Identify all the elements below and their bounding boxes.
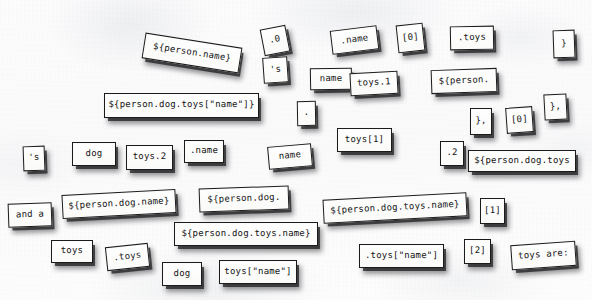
word-tile[interactable]: toys [51, 240, 93, 263]
word-tile-label: }, [550, 102, 562, 112]
word-tile-label: ${person.dog.toys.name} [181, 230, 310, 239]
word-tile-label: and a [16, 210, 44, 220]
word-tile-label: dog [174, 270, 191, 279]
word-tile[interactable]: ${person. [431, 68, 498, 94]
word-tile-label: dog [86, 150, 103, 159]
word-tile[interactable]: [2] [464, 239, 491, 264]
word-tile[interactable]: and a [8, 202, 53, 228]
word-tile-label: toys[1] [345, 136, 384, 145]
word-tile[interactable]: ${person.dog.toys [468, 150, 576, 172]
word-tile-label: [1] [484, 207, 501, 216]
word-tile[interactable]: .toys [450, 26, 494, 51]
word-tile[interactable]: ${person.dog.name} [61, 189, 176, 219]
word-tile-label: }, [475, 117, 486, 126]
word-tile[interactable]: toys are: [510, 241, 577, 270]
tile-board: ${person.name}.0's.name[0].toys}nametoys… [0, 0, 592, 300]
word-tile-label: toys.2 [133, 153, 167, 162]
word-tile[interactable]: toys["name"] [219, 260, 297, 284]
word-tile-label: .0 [269, 35, 282, 46]
word-tile[interactable]: ${person.name} [142, 32, 243, 73]
word-tile-label: .toys [458, 33, 486, 42]
word-tile[interactable]: }, [543, 93, 567, 120]
word-tile[interactable]: toys[1] [337, 128, 392, 152]
word-tile[interactable]: [0] [396, 23, 426, 54]
word-tile[interactable]: toys.1 [349, 71, 398, 96]
word-tile-label: } [561, 39, 567, 48]
word-tile[interactable]: .toys [105, 243, 150, 271]
word-tile[interactable]: ${person.dog. [199, 185, 290, 212]
word-tile-label: [0] [402, 33, 420, 44]
word-tile[interactable]: dog [162, 262, 202, 286]
word-tile-label: toys are: [518, 249, 569, 262]
word-tile-label: .toys [113, 251, 142, 263]
word-tile-label: ${person.dog.toys["name"]} [108, 101, 254, 110]
word-tile-label: .toys["name"] [365, 252, 438, 261]
word-tile-label: toys [61, 247, 83, 256]
word-tile[interactable]: 's [262, 56, 289, 84]
word-tile-label: ${person.dog.toys [474, 157, 570, 166]
word-tile-label: [2] [469, 247, 486, 256]
word-tile-label: ${person.dog.name} [68, 197, 169, 211]
word-tile[interactable]: .0 [260, 25, 291, 56]
word-tile[interactable]: name [310, 68, 352, 91]
word-tile-label: ${person.dog. [207, 193, 280, 205]
word-tile[interactable]: [1] [480, 198, 505, 224]
word-tile-label: name [320, 74, 343, 83]
word-tile[interactable]: [0] [505, 106, 534, 134]
word-tile[interactable]: .name [330, 25, 380, 55]
word-tile-label: ${person.name} [152, 42, 231, 63]
word-tile[interactable]: .name [184, 140, 224, 163]
word-tile[interactable]: } [553, 30, 576, 59]
word-tile-label: .name [190, 147, 218, 156]
word-tile-label: toys["name"] [224, 268, 291, 277]
word-tile-label: toys.1 [357, 78, 391, 89]
word-tile[interactable]: 's [23, 146, 46, 172]
word-tile[interactable]: .2 [440, 141, 464, 166]
word-tile[interactable]: .toys["name"] [359, 244, 444, 268]
word-tile[interactable]: ${person.dog.toys["name"]} [104, 93, 259, 118]
word-tile-label: 's [270, 65, 282, 75]
word-tile[interactable]: ${person.dog.toys.name} [322, 192, 467, 224]
word-tile[interactable]: . [297, 101, 316, 126]
word-tile[interactable]: name [267, 143, 313, 170]
word-tile[interactable]: ${person.dog.toys.name} [174, 222, 318, 246]
word-tile-label: [0] [511, 115, 528, 125]
word-tile-label: .name [340, 34, 369, 46]
word-tile-label: . [304, 109, 310, 118]
word-tile[interactable]: toys.2 [126, 145, 173, 170]
word-tile-label: ${person.dog.toys.name} [330, 200, 460, 216]
word-tile-label: ${person. [439, 76, 490, 87]
word-tile-label: 's [28, 154, 40, 163]
word-tile-label: .2 [446, 149, 457, 158]
word-tile[interactable]: }, [470, 108, 492, 135]
word-tile[interactable]: dog [72, 142, 116, 166]
word-tile-label: name [278, 151, 301, 162]
